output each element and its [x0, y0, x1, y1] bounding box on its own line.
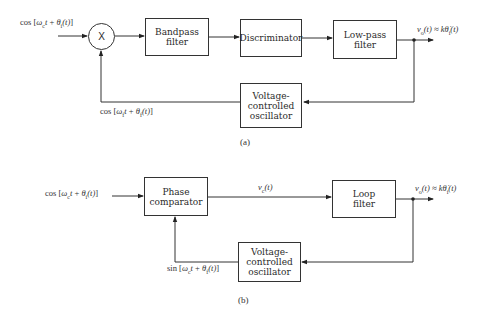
junction-dot-a: [412, 38, 416, 42]
discriminator-block: Discriminator: [240, 19, 302, 57]
output-signal-label-b: vo(t) ≈ kθ̇i(t): [415, 183, 456, 195]
loop-filter-block: Loopfilter: [332, 180, 396, 218]
caption-b: (b): [238, 295, 249, 305]
input-signal-label-b: cos [ωct + θi(t)]: [45, 188, 98, 200]
feedback-signal-label-a: cos [ωft + θf(t)]: [100, 106, 153, 118]
feedback-signal-label-b: sin [ωct + θf(t)]: [167, 263, 219, 275]
multiply-symbol: X: [98, 31, 105, 42]
multiplier-node: X: [88, 23, 115, 50]
vco-block-b: Voltage-controlledoscillator: [238, 242, 301, 282]
input-signal-label-a: cos [ωct + θi(t)]: [20, 17, 73, 29]
phase-comparator-block: Phasecomparator: [144, 177, 208, 216]
bandpass-filter-block: Bandpassfilter: [145, 18, 209, 56]
lowpass-filter-block-a: Low-passfilter: [333, 20, 397, 59]
output-signal-label-a: vo(t) ≈ kθ̇i(t): [417, 24, 458, 36]
control-voltage-label: vc(t): [258, 182, 272, 194]
vco-block-a: Voltage-controlledoscillator: [240, 83, 302, 128]
junction-dot-b: [411, 197, 415, 201]
caption-a: (a): [240, 137, 250, 147]
